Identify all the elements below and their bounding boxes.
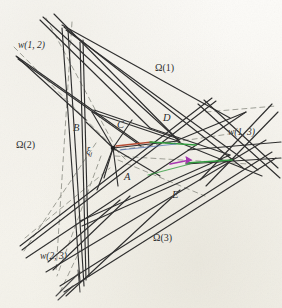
label-vertex-xi: ξj xyxy=(86,146,92,158)
label-vertex-xi-subscript: j xyxy=(90,150,92,158)
label-edge-d: D xyxy=(163,113,171,124)
label-edge-e: E xyxy=(172,190,178,201)
label-omega-1: Ω(1) xyxy=(155,63,174,73)
label-edge-c: C xyxy=(117,120,124,131)
label-wall-2-3: w(2, 3) xyxy=(40,252,67,262)
label-wall-1-3: w(1, 3) xyxy=(228,128,255,138)
label-edge-b: B xyxy=(73,123,79,134)
label-wall-1-2: w(1, 2) xyxy=(18,41,45,51)
label-omega-3: Ω(3) xyxy=(153,233,172,243)
figure-canvas: w(1, 2) w(1, 3) w(2, 3) Ω(1) Ω(2) Ω(3) ξ… xyxy=(0,0,282,308)
label-omega-2: Ω(2) xyxy=(16,140,35,150)
label-edge-a: A xyxy=(124,172,130,183)
